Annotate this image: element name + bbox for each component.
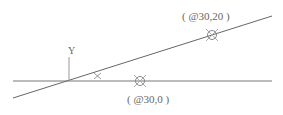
point-marker-30-20-icon [206,29,218,41]
ucs-icon: Y [68,45,75,81]
drawing-canvas: Y ( @30,0 ) ( @30,20 ) [0,0,283,115]
x-marker-icon [94,73,101,79]
point-label-30-20: ( @30,20 ) [182,10,230,23]
inclined-line [13,16,272,98]
point-marker-30-0-icon [134,75,146,87]
y-axis-label: Y [68,45,75,56]
point-label-30-0: ( @30,0 ) [127,93,170,106]
